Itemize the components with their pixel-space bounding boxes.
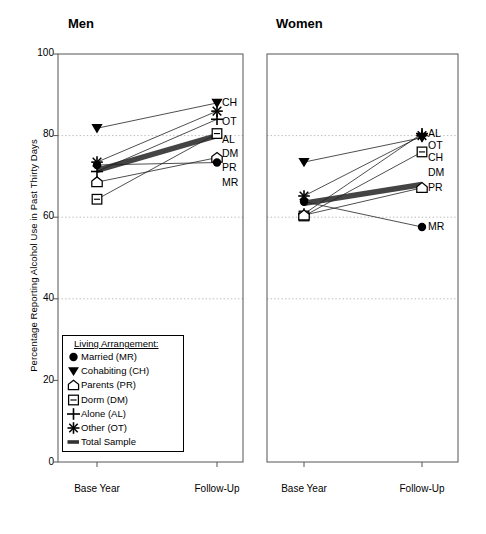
- marker-dm-follow-up: [212, 129, 222, 139]
- marker-mr-base-year: [300, 197, 308, 205]
- legend-item-label: Total Sample: [81, 437, 136, 447]
- filled-down-triangle-icon: [66, 364, 81, 378]
- legend-item-label: Married (MR): [81, 352, 137, 362]
- end-label-ot: OT: [428, 139, 443, 151]
- end-label-mr: MR: [222, 176, 239, 188]
- series-line-pr: [97, 158, 217, 182]
- end-label-mr: MR: [428, 220, 445, 232]
- legend-rows: Married (MR)Cohabiting (CH)Parents (PR)D…: [66, 350, 179, 449]
- square-with-bar-icon: [66, 393, 81, 407]
- legend-item-label: Dorm (DM): [81, 395, 128, 405]
- legend-item-mr: Married (MR): [66, 350, 179, 364]
- legend: Living Arrangement: Married (MR)Cohabiti…: [62, 335, 184, 452]
- legend-title: Living Arrangement:: [66, 338, 179, 349]
- series-line-dm: [304, 152, 422, 216]
- end-label-dm: DM: [428, 166, 444, 178]
- end-label-al: AL: [222, 133, 235, 145]
- end-label-ot: OT: [222, 115, 237, 127]
- plus-icon: [66, 407, 81, 421]
- end-label-pr: PR: [428, 181, 443, 193]
- end-label-ch: CH: [222, 96, 237, 108]
- house-pentagon-icon: [66, 378, 81, 392]
- legend-item-al: Alone (AL): [66, 407, 179, 421]
- legend-item-ts: Total Sample: [66, 435, 179, 449]
- plot-frame-women: [267, 54, 458, 462]
- marker-dm-base-year: [92, 194, 102, 204]
- marker-mr-base-year: [93, 161, 101, 169]
- legend-item-pr: Parents (PR): [66, 378, 179, 392]
- legend-item-label: Alone (AL): [81, 409, 126, 419]
- marker-mr-follow-up: [418, 223, 426, 231]
- legend-item-ot: Other (OT): [66, 421, 179, 435]
- legend-item-ch: Cohabiting (CH): [66, 364, 179, 378]
- marker-dm-follow-up: [417, 147, 427, 157]
- series-line-total-sample: [97, 136, 217, 171]
- filled-circle-icon: [66, 350, 81, 364]
- end-label-dm: DM: [222, 147, 238, 159]
- figure-root: Percentage Reporting Alcohol Use in Past…: [0, 0, 486, 534]
- legend-item-label: Parents (PR): [81, 380, 136, 390]
- end-label-ch: CH: [428, 151, 443, 163]
- series-line-mr: [304, 202, 422, 227]
- legend-item-label: Other (OT): [81, 423, 127, 433]
- end-label-al: AL: [428, 127, 441, 139]
- thick-bar-icon: [66, 435, 81, 449]
- chart-canvas: CHOTALDMPRMRALOTCHDMPRMR: [0, 0, 486, 534]
- six-point-star-icon: [66, 421, 81, 435]
- marker-pr-base-year: [92, 177, 102, 187]
- end-label-pr: PR: [222, 161, 237, 173]
- marker-ch-base-year: [298, 158, 309, 167]
- marker-ch-base-year: [91, 124, 102, 133]
- series-line-ch: [97, 103, 217, 128]
- legend-item-label: Cohabiting (CH): [81, 366, 149, 376]
- series-line-ch: [304, 138, 422, 162]
- marker-mr-follow-up: [213, 158, 221, 166]
- legend-item-dm: Dorm (DM): [66, 393, 179, 407]
